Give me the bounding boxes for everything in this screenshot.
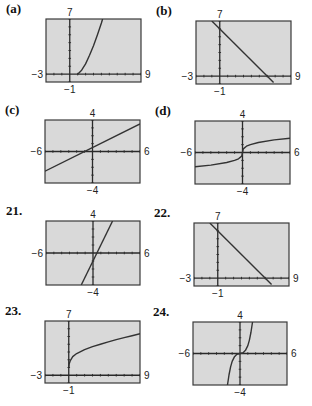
window-label-top: 4 [240, 109, 246, 120]
window-label-right: 9 [145, 69, 151, 80]
window-label-bottom: −1 [214, 86, 225, 97]
window-label-bottom: −1 [212, 288, 223, 299]
screen-frame [45, 321, 140, 383]
calculator-screen [0, 0, 312, 406]
window-label-bottom: −4 [87, 287, 98, 298]
calculator-screen [0, 0, 312, 406]
window-label-right: 9 [144, 370, 150, 381]
window-label-top: 4 [237, 310, 243, 321]
exercise-label: 24. [153, 304, 169, 320]
function-curve [227, 322, 252, 385]
function-curve [45, 124, 140, 171]
window-label-right: 6 [144, 146, 150, 157]
exercise-label: (c) [5, 102, 19, 118]
screen-frame [193, 322, 287, 385]
calculator-screen [0, 0, 312, 406]
screen-frame [196, 21, 291, 84]
calculator-screen [0, 0, 312, 406]
function-curve [81, 221, 112, 285]
window-label-top: 7 [66, 309, 72, 320]
window-label-top: 7 [217, 9, 223, 20]
window-label-left: −3 [32, 69, 43, 80]
window-label-bottom: −4 [237, 186, 248, 197]
window-label-left: −6 [179, 348, 190, 359]
screen-frame [46, 19, 141, 82]
window-label-right: 9 [295, 71, 301, 82]
window-label-bottom: −1 [64, 84, 75, 95]
screen-frame [194, 223, 289, 286]
window-label-top: 7 [215, 211, 221, 222]
window-label-left: −3 [31, 370, 42, 381]
window-label-top: 4 [90, 108, 96, 119]
screen-frame [45, 120, 140, 183]
exercise-label: 22. [154, 205, 170, 221]
window-label-right: 9 [293, 273, 299, 284]
function-curve [195, 138, 290, 166]
function-curve [69, 334, 140, 368]
window-label-top: 4 [90, 209, 96, 220]
calculator-screen [0, 0, 312, 406]
function-curve [212, 21, 274, 82]
window-label-left: −3 [182, 71, 193, 82]
exercise-label: 23. [5, 303, 21, 319]
exercise-label: (d) [155, 103, 171, 119]
calculator-screen [0, 0, 312, 406]
window-label-bottom: −1 [63, 385, 74, 396]
function-curve [78, 19, 103, 74]
window-label-bottom: −4 [87, 185, 98, 196]
screen-frame [46, 221, 140, 285]
exercise-label: 21. [6, 203, 22, 219]
window-label-left: −6 [181, 147, 192, 158]
function-curve [210, 223, 272, 284]
window-label-right: 6 [144, 248, 150, 259]
window-label-right: 6 [291, 348, 297, 359]
window-label-left: −6 [32, 248, 43, 259]
calculator-screen [0, 0, 312, 406]
calculator-screen [0, 0, 312, 406]
window-label-bottom: −4 [234, 387, 245, 398]
exercise-label: (a) [6, 1, 21, 17]
exercise-label: (b) [156, 3, 172, 19]
screen-frame [195, 121, 290, 184]
window-label-left: −3 [180, 273, 191, 284]
window-label-right: 6 [294, 147, 300, 158]
window-label-left: −6 [31, 146, 42, 157]
window-label-top: 7 [67, 7, 73, 18]
